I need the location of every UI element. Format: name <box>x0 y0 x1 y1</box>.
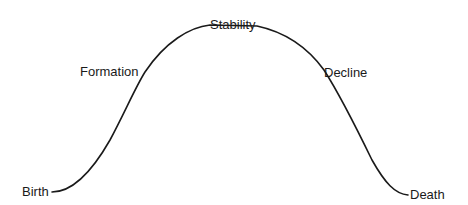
curve-path <box>52 25 408 195</box>
lifecycle-diagram: Birth Formation Stability Decline Death <box>0 0 468 205</box>
stage-label-formation: Formation <box>80 65 139 78</box>
stage-label-death: Death <box>410 188 445 201</box>
stage-label-birth: Birth <box>22 185 49 198</box>
stage-label-decline: Decline <box>324 66 367 79</box>
stage-label-stability: Stability <box>210 18 256 31</box>
